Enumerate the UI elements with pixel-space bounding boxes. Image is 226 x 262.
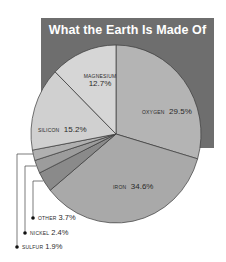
pie-chart (0, 0, 226, 262)
legend-nickel-name: NICKEL (30, 230, 49, 236)
label-iron-name: IRON (113, 184, 126, 190)
dot-nickel (23, 231, 27, 235)
legend-other-pct: 3.7% (59, 213, 76, 222)
legend-sulfur: SULFUR 1.9% (22, 242, 62, 251)
label-oxygen: OXYGEN 29.5% (142, 100, 192, 118)
leader-line-nickel (25, 166, 36, 233)
legend-other: OTHER 3.7% (38, 213, 76, 222)
legend-sulfur-pct: 1.9% (45, 242, 62, 251)
legend-other-name: OTHER (38, 215, 57, 221)
dot-sulfur (15, 245, 19, 249)
label-magnesium: MAGNESIUM 12.7% (77, 73, 123, 88)
label-silicon-pct: 15.2% (64, 125, 87, 134)
label-iron: IRON 34.6% (113, 175, 153, 193)
label-iron-pct: 34.6% (131, 182, 154, 191)
label-silicon-name: SILICON (38, 127, 59, 133)
label-magnesium-pct: 12.7% (77, 79, 123, 88)
legend-nickel: NICKEL 2.4% (30, 228, 68, 237)
label-oxygen-name: OXYGEN (142, 109, 165, 115)
label-silicon: SILICON 15.2% (38, 118, 87, 136)
legend-sulfur-name: SULFUR (22, 244, 43, 250)
label-oxygen-pct: 29.5% (169, 107, 192, 116)
legend-nickel-pct: 2.4% (51, 228, 68, 237)
dot-other (31, 216, 35, 220)
